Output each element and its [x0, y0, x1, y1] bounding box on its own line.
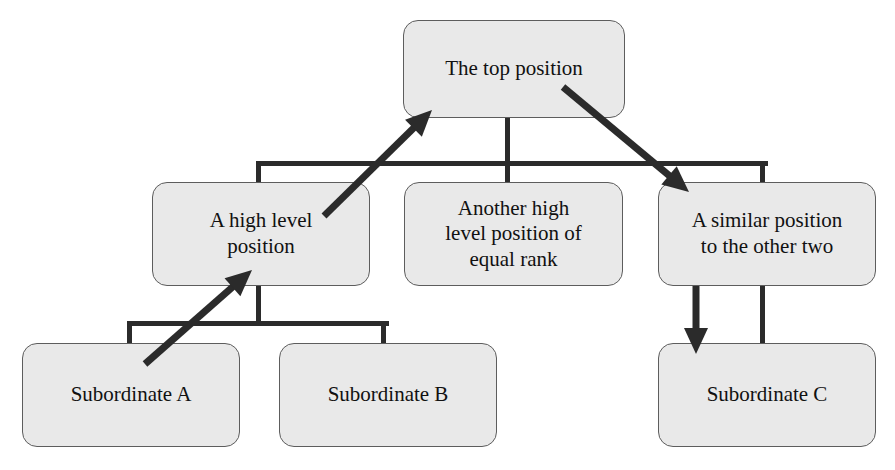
connector-level2-bus — [130, 321, 389, 326]
node-label-subordinate-c: Subordinate C — [707, 382, 828, 408]
node-label-subordinate-a: Subordinate A — [71, 382, 192, 408]
connector-drop-right — [760, 161, 765, 184]
node-label-similar-position: A similar position to the other two — [692, 208, 843, 259]
node-similar-position[interactable]: A similar position to the other two — [658, 182, 876, 286]
node-subordinate-c[interactable]: Subordinate C — [658, 343, 876, 447]
node-label-subordinate-b: Subordinate B — [328, 382, 449, 408]
connector-left-stem — [256, 286, 261, 326]
node-high-level[interactable]: A high level position — [152, 182, 370, 286]
connector-drop-middle — [505, 161, 510, 184]
node-label-high-level: A high level position — [210, 208, 313, 259]
node-label-top: The top position — [445, 56, 583, 82]
connector-drop-left — [256, 161, 261, 184]
org-chart-diagram: The top positionA high level positionAno… — [0, 0, 895, 470]
node-subordinate-b[interactable]: Subordinate B — [279, 343, 497, 447]
connector-drop-sub-c — [760, 286, 765, 345]
connector-drop-sub-b — [381, 321, 386, 345]
connector-drop-sub-a — [127, 321, 132, 345]
connector-top-stem — [505, 118, 510, 164]
connector-level1-bus — [259, 161, 768, 166]
node-another-high-level[interactable]: Another high level position of equal ran… — [404, 182, 623, 286]
node-subordinate-a[interactable]: Subordinate A — [22, 343, 240, 447]
node-label-another-high-level: Another high level position of equal ran… — [445, 196, 581, 273]
node-top[interactable]: The top position — [403, 20, 625, 118]
